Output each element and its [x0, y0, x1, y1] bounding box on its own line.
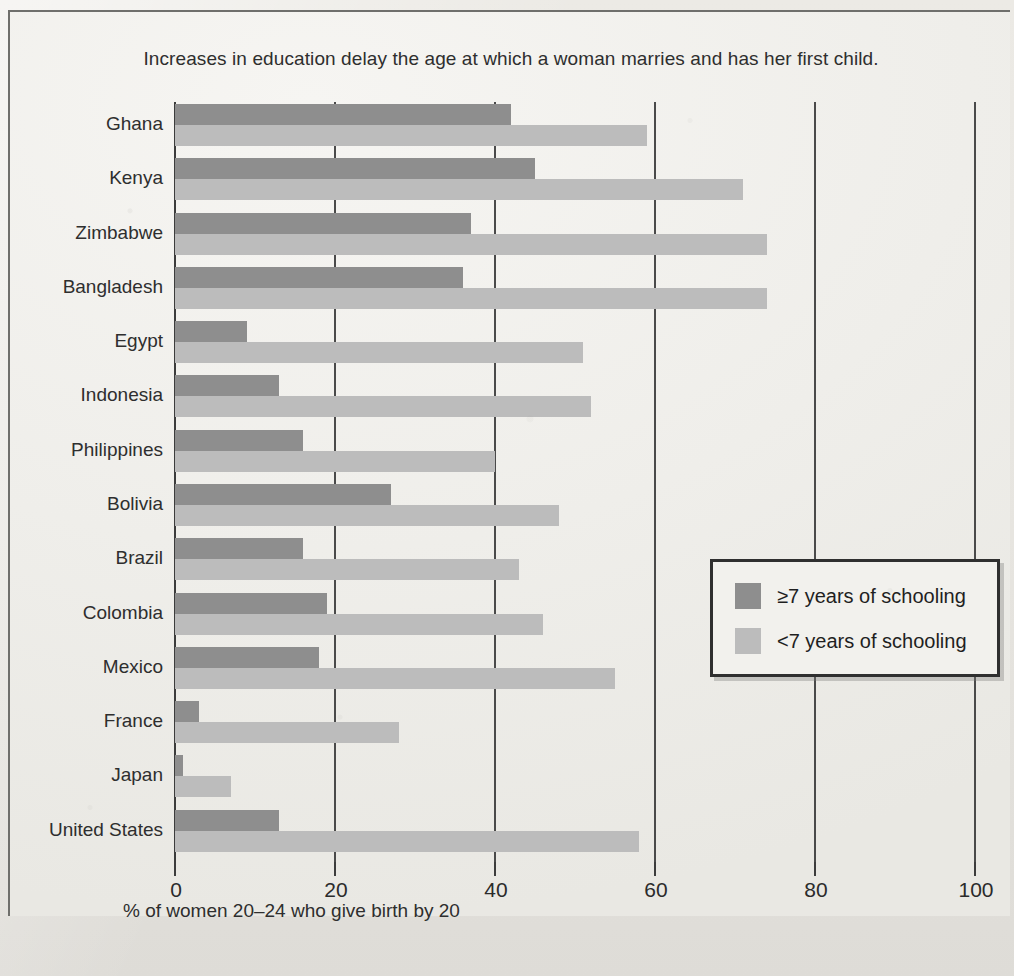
bar-brazil-series1 — [175, 559, 519, 580]
bar-philippines-series1 — [175, 451, 495, 472]
x-tick-label-40: 40 — [466, 878, 526, 902]
dark-gray-swatch-icon — [735, 583, 761, 609]
x-tick-label-20: 20 — [306, 878, 366, 902]
x-tick-label-60: 60 — [626, 878, 686, 902]
bar-egypt-series0 — [175, 321, 247, 342]
chart-legend: ≥7 years of schooling <7 years of school… — [710, 559, 1000, 677]
bar-bolivia-series0 — [175, 484, 391, 505]
chart-row: Indonesia — [175, 373, 975, 427]
category-label-brazil: Brazil — [115, 547, 163, 569]
bar-united-states-series1 — [175, 831, 639, 852]
bar-united-states-series0 — [175, 810, 279, 831]
bar-japan-series0 — [175, 755, 183, 776]
bar-zimbabwe-series1 — [175, 234, 767, 255]
chart-row: Kenya — [175, 156, 975, 210]
x-tick-label-100: 100 — [946, 878, 1006, 902]
category-label-mexico: Mexico — [103, 656, 163, 678]
bar-colombia-series0 — [175, 593, 327, 614]
category-label-united-states: United States — [49, 819, 163, 841]
category-label-kenya: Kenya — [109, 167, 163, 189]
x-tick-20 — [334, 862, 336, 876]
category-label-egypt: Egypt — [114, 330, 163, 352]
chart-row: United States — [175, 808, 975, 862]
category-label-bolivia: Bolivia — [107, 493, 163, 515]
bar-ghana-series0 — [175, 104, 511, 125]
category-label-colombia: Colombia — [83, 602, 163, 624]
bar-colombia-series1 — [175, 614, 543, 635]
bar-france-series0 — [175, 701, 199, 722]
chart-row: Ghana — [175, 102, 975, 156]
legend-label-ge7: ≥7 years of schooling — [777, 585, 966, 608]
x-tick-40 — [494, 862, 496, 876]
chart-row: France — [175, 699, 975, 753]
bar-zimbabwe-series0 — [175, 213, 471, 234]
category-label-ghana: Ghana — [106, 113, 163, 135]
x-tick-80 — [814, 862, 816, 876]
x-tick-label-80: 80 — [786, 878, 846, 902]
category-label-philippines: Philippines — [71, 439, 163, 461]
bar-indonesia-series0 — [175, 375, 279, 396]
bar-brazil-series0 — [175, 538, 303, 559]
bar-philippines-series0 — [175, 430, 303, 451]
bar-mexico-series0 — [175, 647, 319, 668]
chart-row: Bangladesh — [175, 265, 975, 319]
chart-row: Egypt — [175, 319, 975, 373]
bar-indonesia-series1 — [175, 396, 591, 417]
chart-row: Zimbabwe — [175, 211, 975, 265]
x-tick-label-0: 0 — [146, 878, 206, 902]
bar-japan-series1 — [175, 776, 231, 797]
legend-label-lt7: <7 years of schooling — [777, 630, 967, 653]
bar-bangladesh-series0 — [175, 267, 463, 288]
light-gray-swatch-icon — [735, 628, 761, 654]
x-axis-label: % of women 20–24 who give birth by 20 — [123, 900, 460, 922]
x-tick-100 — [974, 862, 976, 876]
bar-bolivia-series1 — [175, 505, 559, 526]
bar-kenya-series0 — [175, 158, 535, 179]
x-tick-0 — [174, 862, 176, 876]
bar-kenya-series1 — [175, 179, 743, 200]
bar-ghana-series1 — [175, 125, 647, 146]
legend-item-ge7: ≥7 years of schooling — [735, 579, 966, 613]
category-label-france: France — [104, 710, 163, 732]
chart-row: Japan — [175, 753, 975, 807]
chart-row: Bolivia — [175, 482, 975, 536]
x-tick-60 — [654, 862, 656, 876]
chart-figure: Increases in education delay the age at … — [8, 10, 1010, 916]
category-label-indonesia: Indonesia — [81, 384, 163, 406]
category-label-japan: Japan — [111, 764, 163, 786]
scanned-page: Increases in education delay the age at … — [0, 0, 1014, 976]
category-label-zimbabwe: Zimbabwe — [75, 222, 163, 244]
bar-france-series1 — [175, 722, 399, 743]
chart-row: Philippines — [175, 428, 975, 482]
plot-area: 020406080100GhanaKenyaZimbabweBangladesh… — [175, 102, 975, 862]
legend-item-lt7: <7 years of schooling — [735, 624, 967, 658]
bar-mexico-series1 — [175, 668, 615, 689]
chart-title: Increases in education delay the age at … — [10, 48, 1012, 70]
category-label-bangladesh: Bangladesh — [63, 276, 163, 298]
bar-bangladesh-series1 — [175, 288, 767, 309]
bar-egypt-series1 — [175, 342, 583, 363]
